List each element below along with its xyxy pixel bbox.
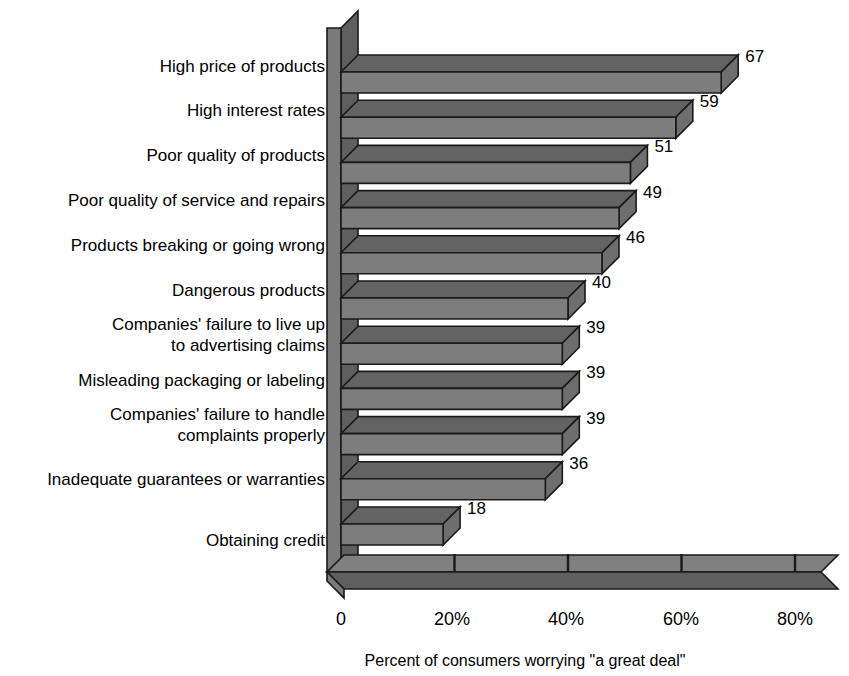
bar-top-face [341, 281, 585, 298]
category-label: Inadequate guarantees or warranties [47, 470, 325, 489]
bar-top-face [341, 507, 460, 524]
bar-front-face [341, 208, 619, 229]
category-label: Misleading packaging or labeling [78, 371, 325, 390]
bar-value-label: 49 [643, 183, 662, 202]
bar-front-face [341, 162, 630, 183]
bar-front-face [341, 388, 562, 409]
x-tick-label: 0 [336, 609, 346, 629]
bar-top-face [341, 100, 693, 117]
bar-top-face [341, 462, 562, 479]
bar [341, 462, 562, 500]
bar-top-face [341, 191, 636, 208]
category-label: High price of products [160, 57, 325, 76]
bar-value-label: 46 [626, 228, 645, 247]
category-label: Companies' failure to live up [112, 315, 325, 334]
bar [341, 326, 579, 364]
bar [341, 281, 585, 319]
bar-value-label: 36 [569, 454, 588, 473]
bar-top-face [341, 145, 647, 162]
bar [341, 371, 579, 409]
bar-value-label: 39 [586, 363, 605, 382]
category-label: Poor quality of products [146, 146, 325, 165]
category-label: Obtaining credit [206, 531, 325, 550]
bar-chart: High price of products High interest rat… [0, 0, 849, 676]
bar [341, 236, 619, 274]
bar [341, 55, 738, 93]
bar-front-face [341, 343, 562, 364]
bar-value-label: 59 [700, 92, 719, 111]
bar-front-face [341, 117, 676, 138]
x-axis-floor-front [327, 572, 838, 589]
x-axis-floor-top [327, 555, 838, 572]
bar [341, 507, 460, 545]
bar-top-face [341, 371, 579, 388]
bar-front-face [341, 479, 545, 500]
category-label: Products breaking or going wrong [71, 236, 325, 255]
bar-value-label: 18 [467, 499, 486, 518]
bar-front-face [341, 434, 562, 455]
bar [341, 417, 579, 455]
category-label: to advertising claims [171, 336, 325, 355]
category-label: complaints properly [178, 426, 326, 445]
y-axis-wall-front [327, 28, 341, 572]
bar [341, 191, 636, 229]
bar-value-label: 67 [745, 47, 764, 66]
x-tick-label: 80% [777, 609, 813, 629]
x-tick-label: 20% [434, 609, 470, 629]
bar-value-label: 39 [586, 318, 605, 337]
bar-value-label: 40 [592, 273, 611, 292]
bar-front-face [341, 524, 443, 545]
bar-front-face [341, 253, 602, 274]
category-label: Dangerous products [172, 281, 325, 300]
bar-top-face [341, 417, 579, 434]
x-tick-label: 60% [663, 609, 699, 629]
category-label: Poor quality of service and repairs [68, 191, 325, 210]
x-axis-title: Percent of consumers worrying "a great d… [365, 652, 686, 669]
chart-container: High price of products High interest rat… [0, 0, 849, 676]
bar-front-face [341, 298, 568, 319]
bar-value-label: 39 [586, 409, 605, 428]
bar-value-label: 51 [654, 137, 673, 156]
bar-top-face [341, 326, 579, 343]
bar-top-face [341, 236, 619, 253]
x-tick-label: 40% [548, 609, 584, 629]
bar-top-face [341, 55, 738, 72]
category-label: High interest rates [187, 101, 325, 120]
bar [341, 145, 647, 183]
bar-front-face [341, 72, 721, 93]
category-label: Companies' failure to handle [110, 405, 325, 424]
bar [341, 100, 693, 138]
